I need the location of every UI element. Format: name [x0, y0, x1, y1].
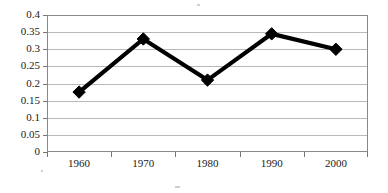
scan-artifact [197, 4, 200, 6]
gridline [48, 66, 367, 67]
x-tick-label: 1990 [261, 157, 283, 169]
y-tick-label: 0.25 [21, 60, 40, 71]
y-tick-mark [43, 135, 47, 136]
gridline [48, 32, 367, 33]
x-axis: 19601970198019902000 [47, 157, 368, 177]
gridline [48, 49, 367, 50]
y-tick-label: 0 [35, 146, 41, 157]
plot-area [47, 15, 368, 152]
x-tick-label: 1970 [132, 157, 154, 169]
x-tick-label: 2000 [325, 157, 347, 169]
y-tick-label: 0.05 [21, 129, 40, 140]
y-tick-mark [43, 66, 47, 67]
y-tick-mark [43, 118, 47, 119]
y-tick-label: 0.3 [26, 43, 40, 54]
y-tick-label: 0.35 [21, 26, 40, 37]
x-tick-mark [175, 152, 176, 157]
x-tick-label: 1960 [68, 157, 90, 169]
x-tick-mark [240, 152, 241, 157]
y-axis: 00.050.10.150.20.250.30.350.4 [0, 0, 44, 193]
y-tick-mark [43, 84, 47, 85]
gridline [48, 101, 367, 102]
x-tick-mark [111, 152, 112, 157]
x-tick-mark [47, 152, 48, 157]
gridline [48, 118, 367, 119]
x-tick-mark [304, 152, 305, 157]
gridline [48, 135, 367, 136]
y-tick-mark [43, 15, 47, 16]
y-tick-label: 0.2 [26, 78, 40, 89]
y-tick-mark [43, 49, 47, 50]
y-tick-mark [43, 32, 47, 33]
x-tick-label: 1980 [197, 157, 219, 169]
line-chart: 00.050.10.150.20.250.30.350.4 1960197019… [0, 0, 388, 193]
scan-artifact [175, 186, 180, 188]
y-tick-label: 0.4 [26, 9, 40, 20]
y-tick-mark [43, 101, 47, 102]
x-tick-mark [367, 152, 368, 157]
y-tick-label: 0.1 [26, 112, 40, 123]
gridline [48, 84, 367, 85]
y-tick-label: 0.15 [21, 95, 40, 106]
scan-artifact [41, 170, 43, 172]
